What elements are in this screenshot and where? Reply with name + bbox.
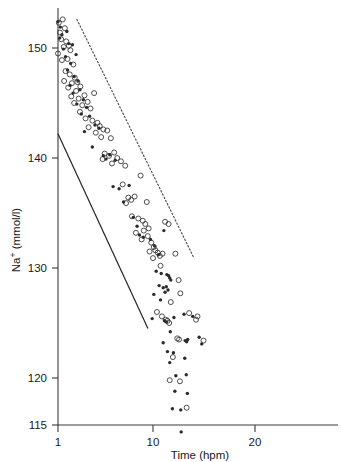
data-point-open: [138, 173, 143, 178]
data-point-filled: [65, 30, 68, 33]
y-tick-label-130: 130: [28, 262, 47, 274]
y-tick-label-140: 140: [28, 152, 47, 164]
data-point-open: [145, 234, 150, 239]
data-point-filled: [56, 20, 59, 23]
x-tick-label-1: 1: [55, 436, 61, 448]
data-point-open: [184, 405, 189, 410]
data-point-filled: [68, 84, 71, 87]
data-point-filled: [171, 407, 174, 410]
data-point-filled: [74, 53, 77, 56]
data-point-open: [118, 159, 123, 164]
y-axis-ticks: [52, 48, 58, 425]
data-point-filled: [168, 361, 171, 364]
data-point-filled: [108, 153, 111, 156]
data-point-filled: [166, 350, 169, 353]
data-point-filled: [182, 313, 185, 316]
data-point-open: [123, 163, 128, 168]
data-point-filled: [150, 317, 153, 320]
data-point-filled: [152, 293, 155, 296]
x-axis-ticks: [58, 425, 255, 432]
plot-canvas: 150 140 130 120 115 1 10 20 Time (hpm) N…: [0, 0, 342, 462]
data-point-filled: [172, 351, 175, 354]
data-point-filled: [160, 272, 163, 275]
data-point-filled: [191, 315, 194, 318]
data-point-filled: [91, 145, 94, 148]
data-point-open: [146, 226, 151, 231]
data-point-open: [90, 118, 95, 123]
data-point-filled: [197, 336, 200, 339]
data-point-filled: [66, 68, 69, 71]
data-point-open: [80, 103, 85, 108]
data-point-open: [151, 256, 156, 261]
data-point-open: [60, 17, 65, 22]
data-point-filled: [135, 225, 138, 228]
data-point-filled: [149, 238, 152, 241]
svg-text:Na+ (mmol/l): Na+ (mmol/l): [8, 208, 22, 273]
data-point-filled: [122, 200, 125, 203]
data-point-open: [140, 218, 145, 223]
data-point-filled: [127, 184, 130, 187]
data-point-open: [108, 136, 113, 141]
data-point-filled: [72, 75, 75, 78]
data-point-open: [154, 310, 159, 315]
data-point-filled: [161, 341, 164, 344]
data-point-filled: [111, 185, 114, 188]
data-point-filled: [71, 43, 74, 46]
data-point-filled: [157, 284, 160, 287]
scatter-plot-figure: 150 140 130 120 115 1 10 20 Time (hpm) N…: [0, 0, 342, 462]
data-point-open: [167, 378, 172, 383]
data-point-filled: [185, 373, 188, 376]
data-point-filled: [172, 316, 175, 319]
data-point-filled: [169, 330, 172, 333]
x-tick-label-20: 20: [249, 436, 262, 448]
data-point-open: [85, 99, 90, 104]
data-point-open: [173, 251, 178, 256]
y-tick-label-115: 115: [29, 419, 47, 431]
data-point-filled: [104, 157, 107, 160]
data-point-filled: [179, 430, 182, 433]
data-point-filled: [159, 298, 162, 301]
data-point-filled: [75, 102, 78, 105]
data-point-open: [83, 116, 88, 121]
data-point-open: [86, 125, 91, 130]
data-point-open: [187, 311, 192, 316]
data-point-filled: [71, 91, 74, 94]
data-point-open: [93, 130, 98, 135]
data-point-open: [177, 379, 182, 384]
data-point-open: [141, 228, 146, 233]
data-point-open: [109, 161, 114, 166]
data-point-filled: [138, 233, 141, 236]
data-point-open: [178, 291, 183, 296]
data-point-filled: [69, 62, 72, 65]
data-point-filled: [142, 236, 145, 239]
data-point-open: [147, 249, 152, 254]
upper-dotted-reference-curve: [77, 19, 193, 256]
data-point-open: [68, 48, 73, 53]
data-point-filled: [93, 123, 96, 126]
data-point-open: [76, 96, 81, 101]
data-point-filled: [82, 98, 85, 101]
data-point-open: [144, 200, 149, 205]
data-point-filled: [186, 392, 189, 395]
data-point-filled: [154, 270, 157, 273]
data-point-open: [132, 194, 137, 199]
data-point-filled: [179, 408, 182, 411]
data-point-open: [88, 106, 93, 111]
y-tick-label-150: 150: [28, 42, 47, 54]
data-point-open: [67, 72, 72, 77]
data-point-filled: [62, 47, 65, 50]
data-point-open: [133, 230, 138, 235]
data-point-filled: [97, 127, 100, 130]
data-point-filled: [186, 338, 189, 341]
data-point-filled: [102, 154, 105, 157]
data-point-filled: [166, 288, 169, 291]
data-point-filled: [163, 291, 166, 294]
data-point-filled: [169, 278, 172, 281]
data-point-filled: [59, 25, 62, 28]
data-point-filled: [85, 106, 88, 109]
data-point-open: [168, 300, 173, 305]
y-axis-title-na: Na: [10, 257, 22, 272]
data-point-filled: [78, 88, 81, 91]
data-point-filled: [165, 285, 168, 288]
data-point-open: [158, 263, 163, 268]
